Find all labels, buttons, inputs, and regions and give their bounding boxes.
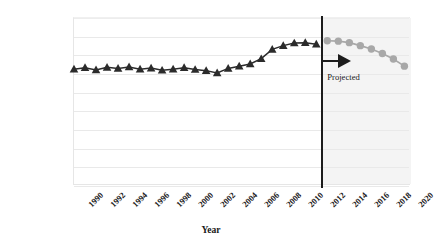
x-axis-tick-label: 2006 bbox=[262, 190, 281, 209]
data-point-triangle bbox=[125, 63, 134, 71]
x-axis-tick-label: 2004 bbox=[240, 190, 259, 209]
data-point-triangle bbox=[81, 63, 90, 71]
data-point-circle bbox=[401, 62, 408, 69]
x-axis-tick-label: 1994 bbox=[130, 190, 149, 209]
data-point-circle bbox=[346, 39, 353, 46]
projected-label: Projected bbox=[327, 72, 359, 82]
x-axis-tick-label: 2018 bbox=[394, 190, 413, 209]
data-point-circle bbox=[379, 50, 386, 57]
data-point-circle bbox=[368, 45, 375, 52]
data-point-circle bbox=[390, 55, 397, 62]
gridline bbox=[74, 186, 409, 187]
x-axis-tick-label: 1998 bbox=[174, 190, 193, 209]
plot-area: 050100150200250300350400450 Projected bbox=[73, 17, 410, 185]
data-point-circle bbox=[357, 42, 364, 49]
x-axis-tick-label: 2012 bbox=[328, 190, 347, 209]
x-axis-tick-label: 2002 bbox=[218, 190, 237, 209]
x-axis-tick-label: 2000 bbox=[196, 190, 215, 209]
data-point-triangle bbox=[246, 60, 255, 68]
figure-caption-clipped bbox=[0, 240, 422, 245]
x-axis-tick-label: 2020 bbox=[416, 190, 435, 209]
x-axis-tick-label: 2014 bbox=[350, 190, 369, 209]
x-axis-tick-label: 2010 bbox=[306, 190, 325, 209]
projected-arrow-head bbox=[338, 54, 351, 68]
data-point-circle bbox=[335, 37, 342, 44]
data-point-circle bbox=[324, 37, 331, 44]
x-axis-tick-label: 1996 bbox=[152, 190, 171, 209]
x-axis-tick-label: 1992 bbox=[108, 190, 127, 209]
x-axis-tick-label: 2008 bbox=[284, 190, 303, 209]
data-point-triangle bbox=[147, 64, 156, 72]
data-point-triangle bbox=[103, 63, 112, 71]
data-point-triangle bbox=[180, 63, 189, 71]
x-axis-tick-label: 1990 bbox=[86, 190, 105, 209]
data-series-layer bbox=[74, 18, 411, 186]
x-axis-title: Year bbox=[0, 224, 422, 235]
projected-arrow-shaft bbox=[322, 60, 339, 62]
projection-divider bbox=[321, 16, 323, 188]
x-axis-tick-label: 2016 bbox=[372, 190, 391, 209]
